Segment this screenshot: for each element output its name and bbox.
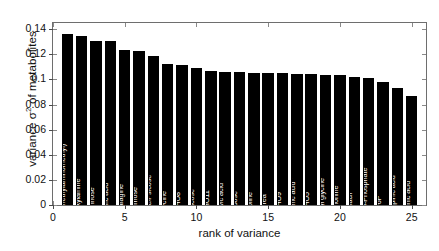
bar[interactable]: 'CHO11' xyxy=(205,71,216,205)
y-tick-label: 0.06 xyxy=(26,123,46,135)
bar-label: 'Asparagine' xyxy=(119,183,125,205)
bar[interactable]: 'Raffinose' xyxy=(133,51,144,205)
bar-series: 'Tartronic acid 2-(methylaminomethyl)''H… xyxy=(53,23,426,205)
bar-label: 'Hydroxylamine' xyxy=(76,177,82,205)
bar-label: 'Raffinose' xyxy=(133,186,139,205)
bar[interactable]: 'Uracil' xyxy=(349,77,360,205)
x-axis-label: rank of variance xyxy=(52,227,427,239)
bar-chart-figure: variance σ2 of metabolites 00.020.040.06… xyxy=(0,0,439,251)
y-tick-label: 0.1 xyxy=(31,72,46,84)
bar[interactable]: 'F6P' xyxy=(377,82,388,205)
bar-label: 'Glucose' xyxy=(191,188,197,205)
bar[interactable]: 'Fructose/Psicose' xyxy=(148,56,159,205)
bar-label: 'Glycine ' xyxy=(162,188,168,205)
x-tick-label: 20 xyxy=(331,211,349,223)
bar[interactable]: 'Hydroxylamine' xyxy=(76,36,87,205)
bar-label: 'CHO9' xyxy=(277,191,283,205)
x-tick-label: 10 xyxy=(187,211,205,223)
bar[interactable]: 'Asparagine' xyxy=(119,50,130,205)
bar[interactable]: 'Suberyl glycine' xyxy=(320,75,331,205)
y-axis-label-symbol: σ xyxy=(26,112,38,119)
bar-label: 'Glutamic acid ' xyxy=(291,178,297,205)
x-tick: 15 xyxy=(268,205,269,209)
bar-label: 'Uracil' xyxy=(349,192,355,205)
plot-area: 00.020.040.060.080.10.120.14 0510152025 … xyxy=(52,22,427,206)
y-tick-label: 0.14 xyxy=(26,22,46,34)
bar[interactable]: 'Glucose-6-Phosphate' xyxy=(363,78,374,205)
bar[interactable]: 'Ribose' xyxy=(234,72,245,205)
bar[interactable]: 'Glyceric acid ' xyxy=(105,41,116,205)
bar[interactable]: 'Iso-Sinapinic acid ' xyxy=(392,88,403,205)
x-tick: 10 xyxy=(196,205,197,209)
bar[interactable]: 'CHO8' xyxy=(176,65,187,205)
bar[interactable]: 'Glycine ' xyxy=(162,64,173,205)
bar-label: 'Mannose' xyxy=(90,186,96,205)
bar[interactable]: 'CHO5' xyxy=(305,74,316,205)
bar[interactable]: 'Glutamic acid ' xyxy=(291,74,302,205)
x-tick-label: 25 xyxy=(403,211,421,223)
bar-label: 'Urea' xyxy=(262,193,268,205)
y-tick-label: 0.08 xyxy=(26,98,46,110)
bar-label: 'Ribose' xyxy=(234,190,240,205)
y-tick-label: 0.04 xyxy=(26,148,46,160)
x-tick: 25 xyxy=(412,205,413,209)
bar-label: 'CHO11' xyxy=(205,189,211,205)
y-tick-label: 0.12 xyxy=(26,47,46,59)
bar[interactable]: 'Proline ' xyxy=(248,73,259,205)
bar-label: 'Threonic acid' xyxy=(406,179,412,205)
bar-label: 'Fructose/Psicose' xyxy=(148,174,154,205)
y-tick-inner-right xyxy=(422,205,426,206)
bar[interactable]: 'Threonic acid' xyxy=(406,96,417,205)
bar[interactable]: 'Glucose' xyxy=(191,68,202,205)
bar[interactable]: 'CHO9' xyxy=(277,73,288,205)
x-tick-label: 0 xyxy=(44,211,62,223)
bar-label: 'F6P' xyxy=(377,194,383,205)
x-tick: 20 xyxy=(340,205,341,209)
x-tick-label: 5 xyxy=(116,211,134,223)
y-tick-label: 0.02 xyxy=(26,173,46,185)
bar-label: 'Suberyl glycine' xyxy=(320,177,326,205)
bar[interactable]: 'Tartronic acid 2-(methylaminomethyl)' xyxy=(62,34,73,205)
x-tick: 0 xyxy=(53,205,54,209)
y-tick-label: 0 xyxy=(40,198,46,210)
bar-label: 'Glyceric acid ' xyxy=(105,180,111,205)
x-tick: 5 xyxy=(125,205,126,209)
bar[interactable]: 'Urea' xyxy=(262,73,273,205)
bar[interactable]: 'Methionine ' xyxy=(334,75,345,205)
x-tick-label: 15 xyxy=(259,211,277,223)
bar-label: 'Methionine ' xyxy=(334,182,340,205)
bar-label: 'Pyruvic acid' xyxy=(219,182,225,205)
bar-label: 'Iso-Sinapinic acid ' xyxy=(392,172,398,205)
bar-label: 'Proline ' xyxy=(248,189,254,205)
y-axis-label-suffix: of metabolites xyxy=(26,31,38,107)
bar-label: 'Glucose-6-Phosphate' xyxy=(363,166,369,205)
bar[interactable]: 'Mannose' xyxy=(90,41,101,205)
bar-label: 'Tartronic acid 2-(methylaminomethyl)' xyxy=(62,143,68,205)
bar-label: 'CHO5' xyxy=(305,191,311,205)
bar[interactable]: 'Pyruvic acid' xyxy=(219,72,230,205)
bar-label: 'CHO8' xyxy=(176,191,182,205)
